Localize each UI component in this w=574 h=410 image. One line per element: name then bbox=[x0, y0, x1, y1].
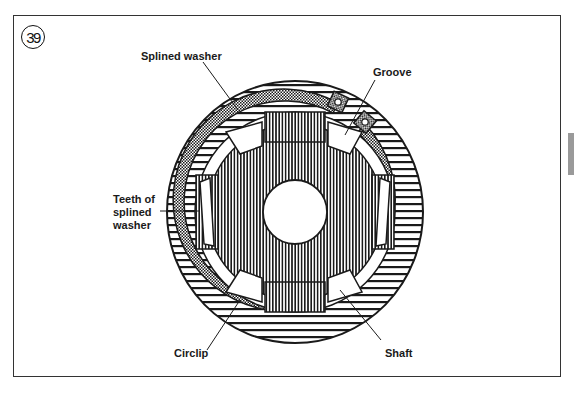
label-teeth-line1: Teeth of bbox=[113, 193, 155, 205]
label-teeth-line3: washer bbox=[112, 219, 152, 231]
label-teeth-line2: splined bbox=[113, 206, 152, 218]
label-circlip: Circlip bbox=[174, 347, 209, 359]
label-groove: Groove bbox=[373, 66, 412, 78]
circlip-assembly-diagram: Splined washer Groove Teeth of splined w… bbox=[0, 0, 574, 410]
label-splined-washer: Splined washer bbox=[141, 50, 222, 62]
shaft-bore bbox=[263, 180, 327, 244]
label-shaft: Shaft bbox=[385, 347, 413, 359]
